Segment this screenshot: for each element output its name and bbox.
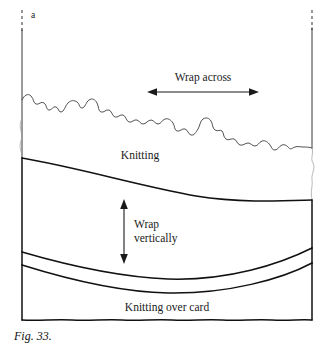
right-ragged-edge	[311, 148, 314, 199]
wrap-vertically-label-line2: vertically	[134, 232, 178, 245]
figure-container: Wrap across Wrap vertically Knitting Kni…	[0, 0, 334, 346]
knitting-ragged-top-edge	[22, 95, 312, 150]
figure-caption: Fig. 33.	[13, 329, 52, 343]
wrap-vertically-label-line1: Wrap	[134, 218, 159, 231]
knitting-label: Knitting	[121, 149, 160, 162]
wrap-across-left-arrowhead-icon	[147, 88, 157, 96]
knitting-panel-top-curve	[22, 158, 312, 201]
wrap-vertically-down-arrowhead-icon	[120, 254, 128, 264]
wrap-vertically-up-arrowhead-icon	[120, 199, 128, 209]
card-bottom-edge	[22, 320, 312, 321]
wrap-across-annotation: Wrap across	[147, 71, 259, 96]
wrap-vertically-annotation: Wrap vertically	[120, 199, 177, 264]
wrap-across-label: Wrap across	[175, 71, 232, 84]
lower-band-top-curve	[22, 248, 312, 279]
knitting-over-card-label: Knitting over card	[125, 301, 210, 314]
wrap-across-right-arrowhead-icon	[249, 88, 259, 96]
knitting-diagram: Wrap across Wrap vertically Knitting Kni…	[0, 0, 334, 346]
point-a-label: a	[31, 10, 36, 20]
lower-band-bottom-curve	[22, 263, 312, 293]
